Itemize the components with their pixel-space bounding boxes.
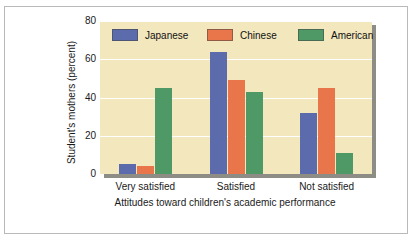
bar [228, 80, 245, 174]
y-tick-label: 60 [74, 54, 96, 64]
bar [300, 113, 317, 174]
bar [137, 166, 154, 174]
y-tick-label: 0 [74, 169, 96, 179]
x-axis-tick-labels: Very satisfiedSatisfiedNot satisfied [100, 181, 372, 195]
x-tick-label: Very satisfied [100, 181, 191, 192]
bars-layer [100, 21, 372, 174]
legend-item: American [298, 27, 373, 43]
bar [336, 153, 353, 174]
chart-legend: JapaneseChineseAmerican [112, 27, 362, 43]
x-tick-label: Not satisfied [281, 181, 372, 192]
y-tick-label: 80 [74, 16, 96, 26]
plot-shadow-bottom [104, 174, 376, 178]
x-axis-title: Attitudes toward children's academic per… [60, 197, 390, 208]
bar [246, 92, 263, 174]
legend-label: Chinese [240, 30, 277, 41]
bar [119, 164, 136, 174]
legend-swatch [298, 29, 324, 41]
bar [210, 52, 227, 174]
plot-shadow-right [372, 25, 376, 178]
legend-label: American [331, 30, 373, 41]
y-tick-label: 20 [74, 131, 96, 141]
y-tick-label: 40 [74, 93, 96, 103]
legend-item: Chinese [207, 27, 277, 43]
bar [318, 88, 335, 174]
legend-swatch [207, 29, 233, 41]
x-tick-label: Satisfied [191, 181, 282, 192]
bar-chart: 020406080 Student's mothers (percent) Ja… [0, 0, 419, 244]
y-axis-title: Student's mothers (percent) [66, 18, 77, 188]
legend-item: Japanese [112, 27, 188, 43]
legend-swatch [112, 29, 138, 41]
legend-label: Japanese [145, 30, 188, 41]
bar [155, 88, 172, 174]
